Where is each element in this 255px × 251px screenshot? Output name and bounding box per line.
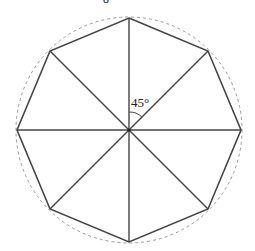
center-point	[127, 128, 130, 131]
cut-off-title: 8	[103, 0, 109, 6]
angle-arc	[129, 112, 142, 117]
spoke	[50, 51, 129, 130]
spoke	[129, 130, 208, 209]
angle-label: 45°	[131, 95, 149, 110]
spoke	[50, 130, 129, 209]
octagon-diagram: 8 45°	[0, 0, 255, 251]
spoke	[129, 51, 208, 130]
